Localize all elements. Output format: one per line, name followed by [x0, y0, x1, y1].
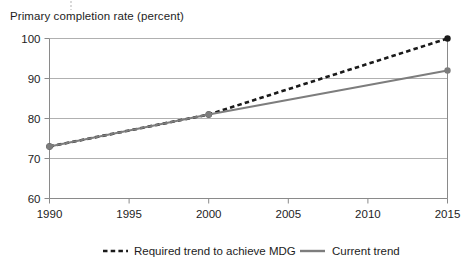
data-point-1-2000 — [206, 111, 212, 117]
xtick-label-1990: 1990 — [37, 208, 63, 220]
data-point-1-2015 — [444, 67, 450, 73]
line-chart-plot: 60708090100199019952000200520102015Requi… — [0, 0, 474, 269]
ytick-label-100: 100 — [21, 33, 40, 45]
xtick-label-2010: 2010 — [355, 208, 381, 220]
xtick-label-2005: 2005 — [276, 208, 302, 220]
ytick-label-70: 70 — [28, 153, 41, 165]
xtick-label-2015: 2015 — [435, 208, 461, 220]
data-point-1-1990 — [46, 143, 52, 149]
legend-label-current-trend: Current trend — [332, 245, 400, 257]
xtick-label-1995: 1995 — [116, 208, 142, 220]
series-line-1 — [50, 71, 448, 147]
series-line-0 — [50, 39, 448, 147]
legend-label-required-trend: Required trend to achieve MDG — [134, 245, 296, 257]
ytick-label-80: 80 — [28, 113, 41, 125]
ytick-label-90: 90 — [28, 73, 41, 85]
data-point-0-2015 — [444, 35, 450, 41]
chart-figure: Primary completion rate (percent) 607080… — [0, 0, 474, 269]
xtick-label-2000: 2000 — [196, 208, 222, 220]
ytick-label-60: 60 — [28, 193, 41, 205]
